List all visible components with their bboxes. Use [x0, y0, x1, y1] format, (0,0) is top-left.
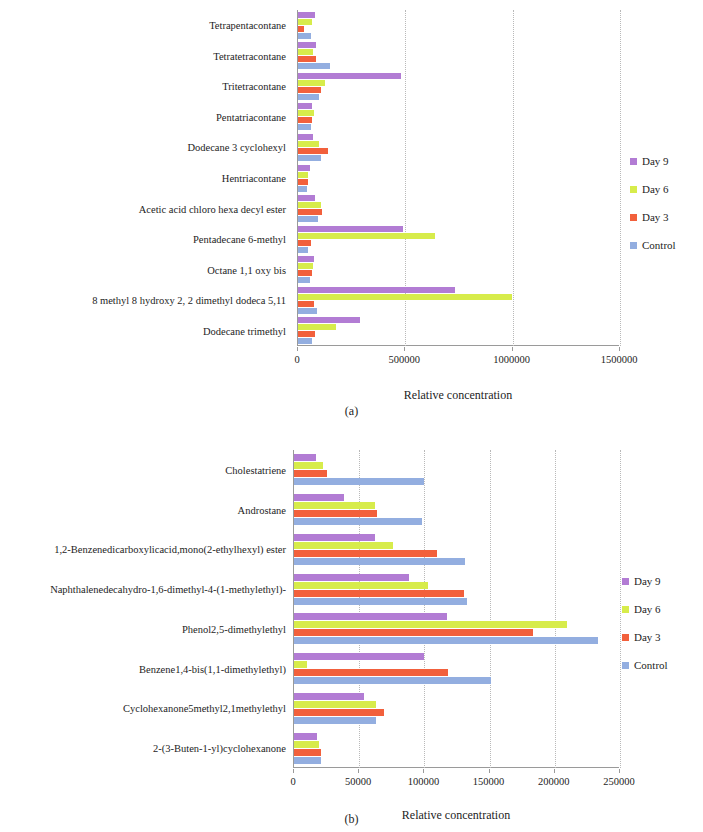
bar-day-3 — [294, 669, 448, 676]
bar-day-6 — [298, 294, 512, 300]
bar-day-3 — [298, 87, 321, 93]
bar-day-3 — [294, 550, 437, 557]
bar-day-3 — [298, 301, 314, 307]
legend-swatch-icon — [630, 214, 637, 221]
bar-day-9 — [294, 494, 344, 501]
bar-day-6 — [294, 621, 567, 628]
caption-a: (a) — [0, 404, 703, 419]
bar-day-9 — [298, 287, 455, 293]
bar-day-9 — [298, 195, 315, 201]
legend-item-control-b: Control — [622, 659, 703, 671]
plot-area-b — [293, 450, 619, 768]
bar-day-9 — [298, 256, 314, 262]
legend-label: Control — [642, 239, 676, 251]
category-label: Octane 1,1 oxy bis — [207, 264, 286, 275]
bar-control — [298, 94, 319, 100]
category-label: Pentadecane 6-methyl — [193, 234, 286, 245]
category-labels-a: TetrapentacontaneTetratetracontaneTritet… — [0, 10, 290, 346]
bar-day-3 — [294, 510, 377, 517]
bar-day-9 — [294, 693, 364, 700]
bar-day-3 — [294, 709, 384, 716]
bar-day-3 — [298, 270, 312, 276]
x-axis-line-b — [294, 767, 619, 768]
gridline — [424, 450, 425, 768]
caption-b: (b) — [0, 812, 703, 827]
plot-area-a — [297, 10, 619, 346]
x-tick-mark — [619, 769, 620, 773]
bar-day-9 — [298, 165, 310, 171]
bar-day-6 — [294, 582, 428, 589]
x-tick-mark — [423, 769, 424, 773]
bar-control — [294, 637, 598, 644]
bar-day-3 — [298, 56, 316, 62]
bar-control — [298, 277, 310, 283]
legend-label: Day 6 — [642, 183, 669, 195]
bar-day-6 — [294, 542, 393, 549]
bar-day-3 — [294, 470, 327, 477]
bar-day-9 — [298, 103, 312, 109]
x-tick-label: 100000 — [408, 776, 440, 787]
legend-label: Day 3 — [642, 211, 669, 223]
x-tick-mark — [293, 769, 294, 773]
category-label: 2-(3-Buten-1-yl)cyclohexanone — [153, 743, 286, 754]
bar-day-6 — [298, 80, 325, 86]
x-tick-label: 250000 — [603, 776, 635, 787]
legend-swatch-icon — [630, 158, 637, 165]
bar-control — [298, 308, 317, 314]
bar-day-9 — [294, 653, 424, 660]
bar-control — [298, 247, 308, 253]
bar-day-6 — [294, 661, 307, 668]
x-axis-ticks-a: 050000010000001500000 — [250, 352, 703, 372]
bar-control — [298, 216, 318, 222]
legend-swatch-icon — [622, 662, 629, 669]
figure-panel-a: TetrapentacontaneTetratetracontaneTritet… — [0, 0, 703, 420]
legend-item-day-9-a: Day 9 — [630, 155, 703, 167]
bar-control — [294, 598, 467, 605]
x-tick-label: 500000 — [389, 354, 421, 365]
bar-control — [294, 478, 424, 485]
bar-day-6 — [298, 324, 336, 330]
bar-control — [298, 63, 330, 69]
bar-control — [298, 155, 321, 161]
bar-day-9 — [298, 73, 401, 79]
legend-label: Day 6 — [634, 603, 661, 615]
gridline — [620, 450, 621, 768]
legend-swatch-icon — [622, 634, 629, 641]
x-tick-mark — [619, 347, 620, 351]
bar-day-9 — [294, 534, 375, 541]
category-label: Dodecane trimethyl — [203, 325, 286, 336]
legend-swatch-icon — [622, 578, 629, 585]
category-label: Tritetracontane — [222, 81, 286, 92]
category-label: Naphthalenedecahydro-1,6-dimethyl-4-(1-m… — [14, 584, 286, 595]
bar-control — [298, 338, 312, 344]
bar-control — [298, 124, 311, 130]
bar-day-9 — [298, 317, 360, 323]
category-label: Dodecane 3 cyclohexyl — [187, 142, 286, 153]
legend-label: Day 9 — [634, 575, 661, 587]
legend-swatch-icon — [630, 242, 637, 249]
legend-swatch-icon — [630, 186, 637, 193]
legend-item-day-3-a: Day 3 — [630, 211, 703, 223]
bar-day-6 — [294, 502, 375, 509]
legend-item-day-6-b: Day 6 — [622, 603, 703, 615]
bar-day-6 — [298, 233, 435, 239]
bar-day-9 — [294, 454, 316, 461]
legend-label: Day 9 — [642, 155, 669, 167]
legend-item-control-a: Control — [630, 239, 703, 251]
bar-day-6 — [294, 741, 319, 748]
legend-item-day-9-b: Day 9 — [622, 575, 703, 587]
bar-day-6 — [298, 110, 314, 116]
bar-day-9 — [298, 226, 403, 232]
legend-label: Day 3 — [634, 631, 661, 643]
legend-b: Day 9Day 6Day 3Control — [622, 575, 703, 687]
category-labels-b: CholestatrieneAndrostane1,2-Benzenedicar… — [0, 450, 290, 768]
bar-control — [294, 757, 321, 764]
bar-day-6 — [298, 49, 313, 55]
bar-day-3 — [298, 26, 304, 32]
x-axis-ticks-b: 050000100000150000200000250000 — [255, 774, 703, 794]
x-tick-label: 50000 — [345, 776, 371, 787]
category-label: Acetic acid chloro hexa decyl ester — [139, 203, 286, 214]
x-tick-mark — [489, 769, 490, 773]
bar-day-3 — [298, 240, 311, 246]
category-label: Cholestatriene — [225, 464, 286, 475]
